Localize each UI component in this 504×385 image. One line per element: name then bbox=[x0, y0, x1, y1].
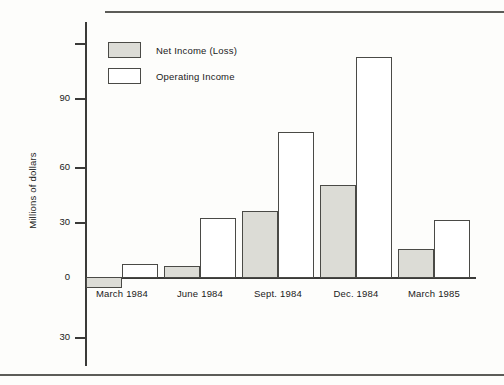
legend-swatch-net-income bbox=[108, 42, 141, 58]
y-tick-label-90: 90 bbox=[46, 92, 70, 103]
x-label-sept-1984: Sept. 1984 bbox=[238, 288, 318, 299]
legend-label-operating-income: Operating Income bbox=[156, 71, 235, 82]
legend-swatch-operating-income bbox=[108, 68, 141, 84]
bar-operating-income-june-1984 bbox=[200, 218, 236, 278]
y-tick-label-0: 0 bbox=[46, 271, 70, 282]
x-label-june-1984: June 1984 bbox=[160, 288, 240, 299]
y-tick-label-30: 30 bbox=[46, 216, 70, 227]
bar-net-income-march-1984 bbox=[86, 277, 122, 288]
x-label-march-1985: March 1985 bbox=[394, 288, 474, 299]
bar-chart: 90 60 30 0 30 Millions of dollars March … bbox=[0, 0, 504, 385]
y-axis-title: Millions of dollars bbox=[27, 131, 38, 251]
y-tick-60 bbox=[75, 167, 86, 169]
bar-net-income-june-1984 bbox=[164, 266, 200, 278]
chart-legend: Net Income (Loss) Operating Income bbox=[108, 42, 237, 94]
bar-net-income-dec-1984 bbox=[320, 185, 356, 278]
x-label-dec-1984: Dec. 1984 bbox=[316, 288, 396, 299]
bar-operating-income-dec-1984 bbox=[356, 57, 392, 278]
legend-item-operating-income: Operating Income bbox=[108, 68, 237, 84]
y-tick-minus-30 bbox=[75, 337, 86, 339]
y-tick-120 bbox=[75, 43, 86, 45]
x-label-march-1984: March 1984 bbox=[82, 288, 162, 299]
y-tick-30 bbox=[75, 222, 86, 224]
legend-item-net-income: Net Income (Loss) bbox=[108, 42, 237, 58]
legend-label-net-income: Net Income (Loss) bbox=[156, 45, 237, 56]
bar-operating-income-march-1984 bbox=[122, 264, 158, 278]
y-tick-label-60: 60 bbox=[46, 161, 70, 172]
bar-operating-income-sept-1984 bbox=[278, 132, 314, 278]
bar-net-income-sept-1984 bbox=[242, 211, 278, 278]
y-tick-label-minus-30: 30 bbox=[46, 331, 70, 342]
bar-net-income-march-1985 bbox=[398, 249, 434, 278]
y-axis-line bbox=[85, 22, 87, 366]
bar-operating-income-march-1985 bbox=[434, 220, 470, 278]
y-tick-90 bbox=[75, 98, 86, 100]
